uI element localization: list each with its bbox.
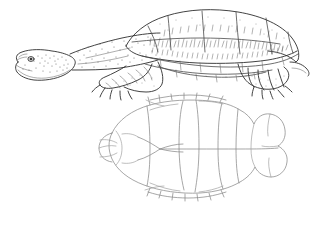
shell-outline-diagram [99,93,287,201]
hindlimb [238,62,309,99]
turtle-lateral-illustration [0,0,314,230]
forelimb-claws [92,85,132,100]
turtle-head [16,50,76,81]
tail [290,62,309,76]
marginal-serrations-bottom [145,186,226,201]
forelimb-scales [106,67,152,89]
marginal-serrations-top [146,93,226,106]
hindlimb-stipple [252,76,285,87]
eye [28,57,34,62]
figure-container [0,0,314,230]
forelimb [92,62,163,100]
